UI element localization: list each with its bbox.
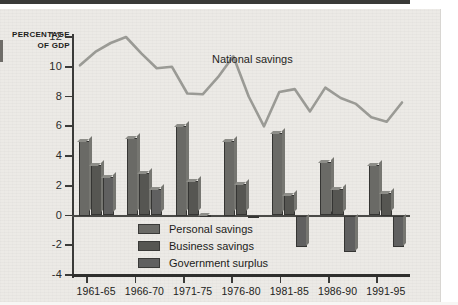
y-tick xyxy=(65,96,72,98)
bar-side-face xyxy=(343,184,346,212)
legend-swatch-icon-business xyxy=(138,241,160,251)
y-tick xyxy=(65,36,72,38)
bar-1981-85-business-savings xyxy=(284,195,295,216)
y-tick-label-text: 10 xyxy=(49,60,62,72)
bar-top-face xyxy=(367,163,379,166)
y-tick-label-text: 2 xyxy=(56,179,62,191)
bar-side-face xyxy=(355,214,358,251)
bar-top-face xyxy=(198,213,210,216)
x-tick xyxy=(328,277,330,283)
legend-swatch-icon-personal xyxy=(138,224,160,234)
y-tick xyxy=(65,274,72,276)
x-tick-label: 1991-95 xyxy=(351,285,421,297)
bar-top-face xyxy=(282,193,294,196)
x-tick xyxy=(183,277,185,283)
bar-side-face xyxy=(294,190,297,212)
bar-1981-85-personal-savings xyxy=(272,133,283,216)
bar-1986-90-business-savings xyxy=(332,189,343,216)
bar-side-face xyxy=(306,214,309,246)
national-savings-line xyxy=(80,37,402,126)
plot-area: PERCENTAGE OF GDP -4-2024681012 1961-651… xyxy=(0,0,458,305)
legend-swatch-icon-government xyxy=(138,258,160,268)
bar-1961-65-business-savings xyxy=(91,165,102,216)
bar-1976-80-business-savings xyxy=(236,184,247,215)
bar-1971-75-business-savings xyxy=(188,181,199,215)
y-tick-label-text: 12 xyxy=(49,30,62,42)
x-tick xyxy=(86,277,88,283)
bar-1991-95-government-surplus xyxy=(393,216,404,247)
bar-side-face xyxy=(246,179,249,211)
x-axis xyxy=(72,274,410,277)
bar-side-face xyxy=(198,176,201,211)
bar-1991-95-personal-savings xyxy=(369,165,380,216)
x-tick xyxy=(135,277,137,283)
y-axis xyxy=(72,34,74,278)
y-tick xyxy=(65,66,72,68)
x-tick xyxy=(376,277,378,283)
bar-top-face xyxy=(318,160,330,163)
bar-top-face xyxy=(101,175,113,178)
bar-top-face xyxy=(89,163,101,166)
bar-side-face xyxy=(391,188,394,211)
bar-1966-70-personal-savings xyxy=(127,138,138,215)
y-tick-label-text: 0 xyxy=(56,209,62,221)
y-tick xyxy=(65,215,72,217)
bar-top-face xyxy=(270,131,282,134)
bar-top-face xyxy=(234,182,246,185)
y-tick-label-text: -2 xyxy=(52,238,62,250)
y-tick xyxy=(65,244,72,246)
y-axis-title-line2: OF GDP xyxy=(8,41,70,52)
legend-item-personal-savings: Personal savings xyxy=(138,221,268,236)
x-tick xyxy=(280,277,282,283)
bar-side-face xyxy=(113,172,116,212)
legend-item-business-savings: Business savings xyxy=(138,238,268,253)
chart-legend: Personal savings Business savings Govern… xyxy=(138,221,268,272)
bar-1971-75-government-surplus xyxy=(200,215,211,217)
bar-1961-65-government-surplus xyxy=(103,177,114,216)
bar-1961-65-personal-savings xyxy=(79,141,90,215)
bar-1976-80-government-surplus xyxy=(248,216,259,218)
y-tick-label-text: 4 xyxy=(56,149,62,161)
bar-1976-80-personal-savings xyxy=(224,141,235,215)
bar-side-face xyxy=(161,184,164,212)
bar-top-face xyxy=(149,187,161,190)
bar-top-face xyxy=(330,187,342,190)
bar-side-face xyxy=(403,214,406,246)
bar-1981-85-government-surplus xyxy=(296,216,307,247)
bar-1966-70-government-surplus xyxy=(151,189,162,216)
y-tick-label-text: 8 xyxy=(56,90,62,102)
bar-1986-90-government-surplus xyxy=(344,216,355,252)
y-tick xyxy=(65,155,72,157)
y-tick xyxy=(65,125,72,127)
y-tick xyxy=(65,185,72,187)
bar-top-face xyxy=(186,179,198,182)
bar-top-face xyxy=(137,171,149,174)
bar-1971-75-personal-savings xyxy=(176,126,187,215)
bar-1991-95-business-savings xyxy=(381,193,392,215)
bar-top-face xyxy=(222,139,234,142)
bar-top-face xyxy=(77,139,89,142)
legend-label-government: Government surplus xyxy=(169,257,268,269)
chart-page: PERCENTAGE OF GDP -4-2024681012 1961-651… xyxy=(0,0,458,305)
bar-top-face xyxy=(125,136,137,139)
national-savings-annotation: National savings xyxy=(212,53,293,65)
y-tick-label-text: 6 xyxy=(56,119,62,131)
y-tick-label-text: -4 xyxy=(52,268,62,280)
bar-top-face xyxy=(379,191,391,194)
legend-label-business: Business savings xyxy=(169,240,254,252)
bar-top-face xyxy=(174,124,186,127)
bar-1966-70-business-savings xyxy=(139,173,150,215)
legend-item-government-surplus: Government surplus xyxy=(138,255,268,270)
legend-label-personal: Personal savings xyxy=(169,223,253,235)
x-tick xyxy=(231,277,233,283)
